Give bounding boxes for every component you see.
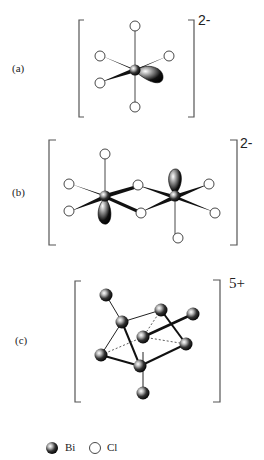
- left-bracket: [75, 281, 81, 402]
- legend-bi-label: Bi: [65, 441, 75, 453]
- cl-atom: [95, 78, 105, 88]
- left-bracket: [79, 20, 84, 117]
- structure-diagram: [0, 0, 264, 460]
- cl-atom: [136, 208, 146, 218]
- figure: (a) (b) (c) 2- 2- 5+ Bi Cl: [0, 0, 264, 460]
- panel-a-structure: [79, 20, 194, 117]
- cl-legend-icon: [90, 443, 101, 454]
- bi-atom: [100, 289, 113, 302]
- bi-atom: [100, 191, 111, 202]
- cl-atom: [64, 179, 74, 189]
- bi-atom: [134, 360, 147, 373]
- cl-atom: [210, 208, 220, 218]
- right-bracket: [213, 280, 220, 402]
- panel-b-structure: [49, 140, 237, 245]
- panel-c-charge: 5+: [229, 275, 245, 292]
- cl-atom: [173, 233, 183, 243]
- bi-atom: [137, 331, 150, 344]
- left-bracket: [49, 140, 56, 245]
- cl-atom: [204, 179, 214, 189]
- bi-atom: [170, 191, 181, 202]
- bi-atom: [130, 65, 141, 76]
- bi-atom: [137, 387, 150, 400]
- panel-a-label: (a): [12, 62, 24, 74]
- cl-atom: [95, 51, 105, 61]
- right-bracket: [230, 140, 237, 245]
- cl-atom: [100, 149, 110, 159]
- lone-pair-lobe: [169, 169, 182, 194]
- panel-b-charge: 2-: [240, 135, 252, 151]
- panel-b-label: (b): [12, 186, 25, 198]
- right-bracket: [188, 20, 194, 117]
- panel-c-structure: [75, 280, 220, 402]
- bi-legend-icon: [46, 442, 58, 454]
- cl-atom: [130, 102, 140, 112]
- panel-a-charge: 2-: [198, 12, 210, 28]
- panel-c-label: (c): [15, 334, 27, 346]
- cl-atom: [133, 180, 143, 190]
- cl-atom: [130, 21, 140, 31]
- bi-atom: [155, 304, 168, 317]
- cl-atom: [164, 51, 174, 61]
- legend-cl-label: Cl: [107, 441, 117, 453]
- cl-atom: [64, 206, 74, 216]
- bi-atom: [95, 349, 108, 362]
- bi-atom: [180, 338, 193, 351]
- bi-atom: [116, 316, 129, 329]
- bi-atom: [187, 308, 200, 321]
- lone-pair-lobe: [98, 198, 111, 224]
